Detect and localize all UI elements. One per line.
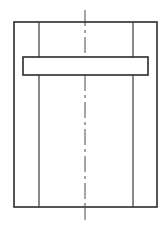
- ring-band-fill: [23, 57, 148, 75]
- technical-drawing-canvas: [0, 0, 167, 227]
- drawing-svg: [0, 0, 167, 227]
